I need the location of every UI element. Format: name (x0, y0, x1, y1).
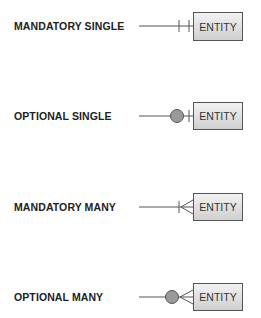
optional-many-symbol-icon (139, 290, 193, 304)
entity-box-optional-single: ENTITY (193, 102, 243, 130)
label-optional-single: OPTIONAL SINGLE (14, 110, 112, 122)
mandatory-many-symbol-icon (139, 200, 193, 214)
entity-box-mandatory-single: ENTITY (193, 12, 243, 41)
entity-box-optional-many: ENTITY (193, 283, 243, 311)
mandatory-single-symbol-icon (139, 20, 193, 32)
connector-lines (0, 0, 261, 318)
label-mandatory-single: MANDATORY SINGLE (14, 20, 124, 32)
label-mandatory-many: MANDATORY MANY (14, 201, 116, 213)
optional-single-symbol-icon (139, 110, 193, 123)
entity-box-mandatory-many: ENTITY (193, 193, 243, 221)
label-optional-many: OPTIONAL MANY (14, 291, 103, 303)
